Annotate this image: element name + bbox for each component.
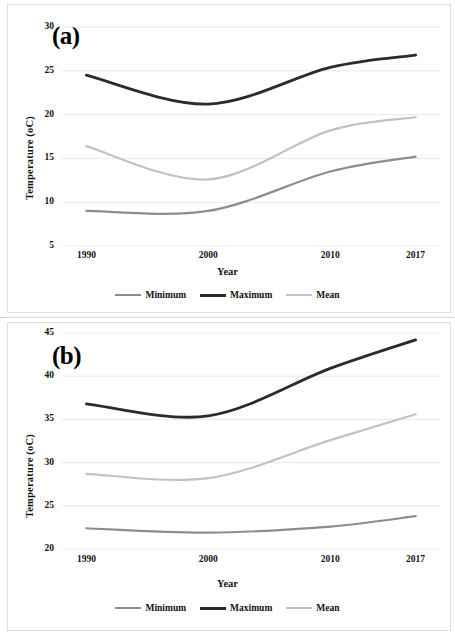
panel-a-plot <box>0 0 455 318</box>
series-line-mean <box>86 117 415 179</box>
legend-swatch-minimum <box>115 607 141 609</box>
legend-item-maximum: Maximum <box>200 603 272 613</box>
legend-swatch-mean <box>286 607 312 609</box>
series-line-mean <box>86 414 415 480</box>
legend-item-minimum: Minimum <box>115 290 186 300</box>
series-line-maximum <box>86 340 415 417</box>
legend-label-mean: Mean <box>316 290 339 300</box>
legend-label-maximum: Maximum <box>230 603 272 613</box>
series-line-maximum <box>86 55 415 104</box>
panel-b-legend: Minimum Maximum Mean <box>0 603 455 613</box>
legend-swatch-maximum <box>200 294 226 297</box>
figure-container: (a) Temperature (oC) Year 51015202530199… <box>0 0 455 635</box>
legend-label-minimum: Minimum <box>145 603 186 613</box>
legend-swatch-maximum <box>200 607 226 610</box>
legend-label-mean: Mean <box>316 603 339 613</box>
legend-swatch-mean <box>286 294 312 296</box>
legend-swatch-minimum <box>115 294 141 296</box>
chart-panel-a: (a) Temperature (oC) Year 51015202530199… <box>0 0 455 318</box>
legend-item-maximum: Maximum <box>200 290 272 300</box>
series-line-minimum <box>86 516 415 532</box>
legend-label-maximum: Maximum <box>230 290 272 300</box>
chart-panel-b: (b) Temperature (oC) Year 20253035404519… <box>0 318 455 635</box>
legend-item-mean: Mean <box>286 290 339 300</box>
panel-a-legend: Minimum Maximum Mean <box>0 290 455 300</box>
legend-item-mean: Mean <box>286 603 339 613</box>
legend-item-minimum: Minimum <box>115 603 186 613</box>
panel-b-plot <box>0 318 455 635</box>
legend-label-minimum: Minimum <box>145 290 186 300</box>
